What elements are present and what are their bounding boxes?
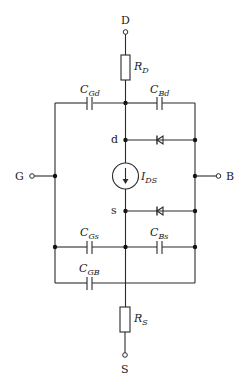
capacitor-cbd-label: CBd [150, 83, 169, 98]
capacitor-cbd [157, 97, 162, 110]
resistor-rs-label: RS [133, 312, 148, 327]
terminal-drain [123, 30, 128, 35]
node-label-s: s [111, 204, 117, 217]
capacitor-cgb-label: CGB [79, 262, 100, 277]
capacitor-cbs-label: CBs [150, 226, 168, 241]
capacitor-cgd [87, 97, 92, 110]
capacitor-cgd-label: CGd [80, 83, 100, 98]
capacitor-cgb [87, 277, 92, 290]
terminal-bulk [216, 174, 221, 179]
capacitor-cgs-label: CGs [80, 226, 99, 241]
resistor-rs [120, 307, 130, 332]
resistor-rd-label: RD [133, 60, 149, 75]
capacitor-cgs [87, 241, 92, 254]
terminal-label-bulk: B [226, 170, 234, 183]
terminal-label-drain: D [121, 14, 130, 27]
current-source-ids [113, 163, 139, 189]
terminal-label-source: S [121, 363, 129, 376]
resistor-rd [121, 55, 130, 80]
circuit-diagram: D RD CGd CBd d IDS G B [0, 0, 245, 387]
capacitor-cbs [157, 241, 162, 254]
terminal-gate [30, 174, 35, 179]
terminal-label-gate: G [15, 170, 24, 183]
node-label-d: d [111, 133, 118, 146]
current-source-label: IDS [140, 170, 158, 185]
terminal-source [123, 353, 128, 358]
